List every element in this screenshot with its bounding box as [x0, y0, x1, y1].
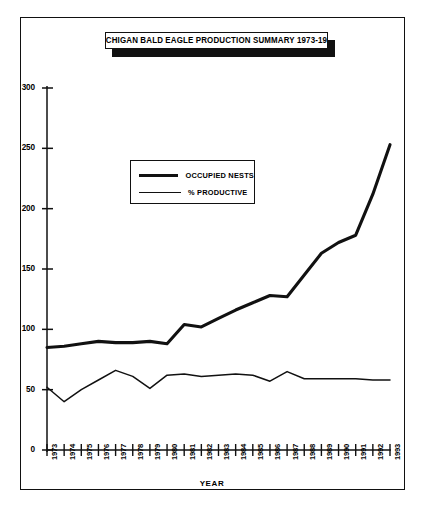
y-tick-label: 300 [9, 83, 35, 92]
x-tick-label: 1984 [239, 444, 248, 460]
x-tick-label: 1990 [342, 444, 351, 460]
axis-lines [47, 86, 391, 452]
data-series-layer [47, 145, 390, 402]
series-line-occupied-nests [47, 145, 390, 348]
x-tick-label: 1976 [102, 444, 111, 460]
y-tick-label: 150 [9, 264, 35, 273]
x-tick-label: 1974 [68, 444, 77, 460]
x-tick-label: 1981 [188, 444, 197, 460]
x-tick-label: 1978 [136, 444, 145, 460]
x-tick-label: 1988 [308, 444, 317, 460]
x-tick-label: 1986 [273, 444, 282, 460]
x-tick-label: 1985 [256, 444, 265, 460]
y-tick-label: 250 [9, 143, 35, 152]
x-tick-label: 1989 [325, 444, 334, 460]
x-tick-label: 1991 [359, 444, 368, 460]
series-line-productive [47, 370, 390, 401]
x-tick-label: 1973 [50, 444, 59, 460]
y-tick-label: 200 [9, 204, 35, 213]
x-tick-label: 1977 [119, 444, 128, 460]
x-tick-label: 1979 [153, 444, 162, 460]
x-axis-title: YEAR [0, 479, 424, 488]
plot-canvas [0, 0, 424, 521]
y-tick-label: 50 [9, 385, 35, 394]
x-tick-label: 1980 [170, 444, 179, 460]
x-tick-label: 1987 [291, 444, 300, 460]
x-axis-ticks [47, 444, 390, 456]
y-tick-label: 100 [9, 324, 35, 333]
x-tick-label: 1982 [205, 444, 214, 460]
x-tick-label: 1992 [376, 444, 385, 460]
x-tick-label: 1983 [222, 444, 231, 460]
y-tick-label: 0 [9, 445, 35, 454]
x-tick-label: 1993 [393, 444, 402, 460]
chart-figure: MICHIGAN BALD EAGLE PRODUCTION SUMMARY 1… [0, 0, 424, 521]
x-tick-label: 1975 [85, 444, 94, 460]
